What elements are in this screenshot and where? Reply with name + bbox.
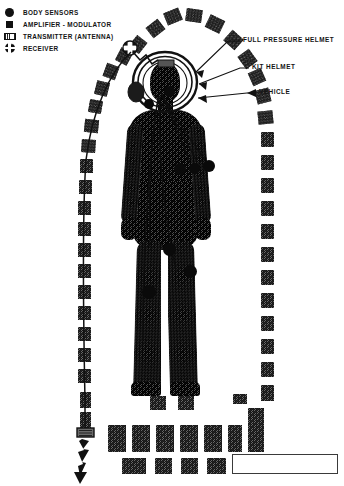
arc-block bbox=[185, 8, 203, 23]
arc-block bbox=[204, 425, 222, 452]
arc-block bbox=[150, 396, 166, 410]
arc-block bbox=[84, 119, 99, 133]
arc-block bbox=[261, 201, 274, 216]
callout-vehicle: VEHICLE bbox=[259, 88, 290, 95]
filled-square-icon bbox=[4, 19, 18, 30]
arc-block bbox=[205, 14, 226, 34]
left-hand bbox=[121, 218, 137, 240]
arc-block bbox=[78, 222, 91, 236]
arc-block bbox=[78, 306, 91, 320]
caption-box bbox=[232, 454, 338, 474]
arc-block bbox=[223, 30, 244, 50]
body-sensor bbox=[144, 99, 154, 109]
arc-block bbox=[248, 68, 266, 86]
figure-root: BODY SENSORS AMPLIFIER - MODULATOR TRANS… bbox=[0, 0, 344, 486]
arc-block bbox=[78, 327, 91, 341]
arc-block bbox=[261, 270, 274, 285]
arc-block bbox=[79, 180, 92, 194]
arc-block bbox=[132, 425, 150, 452]
left-foot bbox=[131, 382, 161, 396]
arc-block bbox=[163, 7, 183, 25]
legend-item-amplifier-modulator: AMPLIFIER - MODULATOR bbox=[4, 18, 154, 30]
arc-block bbox=[78, 264, 91, 278]
body-sensor bbox=[164, 86, 175, 97]
radio-emission-arrow bbox=[74, 439, 89, 484]
arc-block bbox=[178, 396, 194, 410]
arc-block bbox=[78, 201, 91, 215]
filled-circle-icon bbox=[4, 7, 18, 18]
right-foot bbox=[170, 382, 200, 396]
arc-block bbox=[248, 408, 264, 452]
arc-block bbox=[261, 362, 274, 377]
arc-block bbox=[80, 159, 93, 173]
arc-block bbox=[228, 425, 242, 452]
legend-label-transmitter: TRANSMITTER (ANTENNA) bbox=[23, 33, 113, 40]
leg-gap bbox=[161, 250, 168, 390]
right-leg bbox=[166, 240, 198, 391]
arc-block bbox=[180, 425, 198, 452]
arc-block bbox=[233, 394, 247, 404]
legend-label-amplifier-modulator: AMPLIFIER - MODULATOR bbox=[23, 21, 111, 28]
arc-block bbox=[80, 412, 91, 430]
body-sensor bbox=[174, 163, 186, 175]
arc-block bbox=[81, 139, 96, 153]
arc-block bbox=[261, 178, 274, 193]
arc-block bbox=[181, 458, 198, 474]
hips bbox=[133, 182, 198, 248]
arc-block bbox=[94, 80, 110, 97]
arc-block bbox=[88, 99, 103, 114]
body-sensor bbox=[163, 243, 176, 256]
arc-block bbox=[207, 458, 226, 474]
arc-block bbox=[78, 285, 91, 299]
arc-block bbox=[78, 369, 91, 383]
body-sensor bbox=[184, 265, 197, 278]
arc-block bbox=[261, 316, 274, 331]
arc-block bbox=[80, 392, 91, 408]
arc-block bbox=[102, 63, 119, 81]
arc-block bbox=[261, 247, 274, 262]
arc-block bbox=[108, 425, 126, 452]
callout-kit-helmet: KIT HELMET bbox=[252, 63, 295, 70]
arc-block bbox=[155, 458, 172, 474]
arc-block bbox=[156, 425, 174, 452]
arc-block bbox=[257, 110, 273, 124]
crossed-circle-icon bbox=[4, 43, 18, 54]
arc-block bbox=[78, 348, 91, 362]
legend-label-receiver: RECEIVER bbox=[23, 45, 58, 52]
arc-block bbox=[78, 243, 91, 257]
body-sensor bbox=[203, 160, 215, 172]
legend-item-body-sensors: BODY SENSORS bbox=[4, 6, 154, 18]
arc-block bbox=[261, 339, 274, 354]
arc-block bbox=[261, 132, 274, 147]
right-hand bbox=[195, 218, 211, 240]
body-sensor bbox=[142, 285, 156, 299]
head bbox=[150, 62, 180, 102]
legend-label-body-sensors: BODY SENSORS bbox=[23, 9, 79, 16]
hatched-rectangle-icon bbox=[4, 31, 18, 42]
arc-block bbox=[261, 385, 274, 401]
arc-block bbox=[261, 155, 274, 170]
bottom-caption bbox=[8, 479, 344, 486]
arc-block bbox=[261, 293, 274, 308]
callout-full-pressure-helmet: FULL PRESSURE HELMET bbox=[243, 36, 334, 43]
arc-block bbox=[261, 224, 274, 239]
callout-arrowheads bbox=[196, 70, 256, 103]
body-sensor bbox=[189, 163, 200, 174]
arc-block bbox=[122, 458, 146, 474]
